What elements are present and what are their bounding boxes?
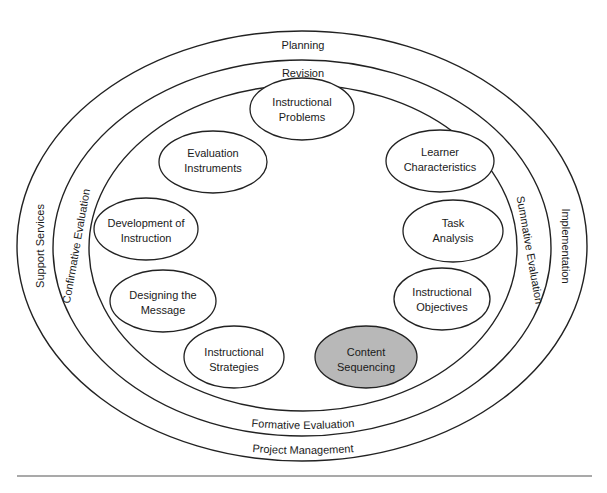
ring-label-formative-evaluation: Formative Evaluation [251,417,355,431]
instructional-design-model-diagram: Planning Project Management Support Serv… [0,0,607,493]
ring-label-project-management: Project Management [252,442,354,456]
node-evaluation-instruments: Evaluation Instruments [159,131,267,193]
svg-text:Instruments: Instruments [184,162,242,174]
node-designing-the-message: Designing the Message [110,270,216,332]
svg-text:Message: Message [141,304,186,316]
svg-text:Objectives: Objectives [416,301,468,313]
node-content-sequencing: Content Sequencing [315,326,417,388]
node-development-of-instruction: Development of Instruction [94,198,198,260]
ring-label-revision: Revision [282,67,324,79]
svg-text:Instructional: Instructional [272,96,331,108]
node-instructional-strategies: Instructional Strategies [184,326,284,388]
node-learner-characteristics: Learner Characteristics [386,130,494,192]
ring-label-planning: Planning [282,39,325,51]
svg-text:Strategies: Strategies [209,361,259,373]
ring-label-implementation: Implementation [560,208,572,283]
svg-text:Instructional: Instructional [204,346,263,358]
ring-label-support-services: Support Services [34,204,46,288]
node-task-analysis: Task Analysis [403,200,503,262]
svg-text:Characteristics: Characteristics [404,161,477,173]
node-instructional-problems: Instructional Problems [250,78,354,140]
ring-label-confirmative-evaluation: Confirmative Evaluation [60,188,92,304]
svg-text:Designing the: Designing the [129,289,196,301]
svg-text:Task: Task [442,217,465,229]
svg-text:Content: Content [347,346,386,358]
svg-text:Instructional: Instructional [412,286,471,298]
svg-text:Development of: Development of [107,217,185,229]
svg-text:Learner: Learner [421,146,459,158]
svg-text:Evaluation: Evaluation [187,147,238,159]
svg-text:Analysis: Analysis [433,232,474,244]
ring-label-summative-evaluation: Summative Evaluation [515,195,546,305]
svg-text:Problems: Problems [279,111,326,123]
svg-text:Sequencing: Sequencing [337,361,395,373]
node-instructional-objectives: Instructional Objectives [394,268,490,330]
svg-text:Instruction: Instruction [121,232,172,244]
